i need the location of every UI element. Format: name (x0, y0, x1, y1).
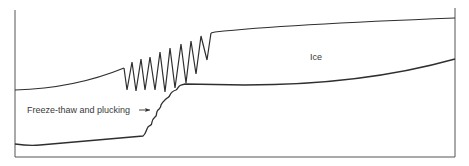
ice-surface-right (211, 18, 455, 33)
process-label: Freeze-thaw and plucking (27, 105, 130, 115)
arrow-icon (139, 108, 150, 112)
crevasses (124, 33, 211, 92)
ice-label: Ice (310, 52, 322, 62)
glacier-diagram: Ice Freeze-thaw and plucking (0, 0, 469, 166)
ice-surface-left (15, 68, 124, 90)
glacier-bed (15, 59, 455, 145)
